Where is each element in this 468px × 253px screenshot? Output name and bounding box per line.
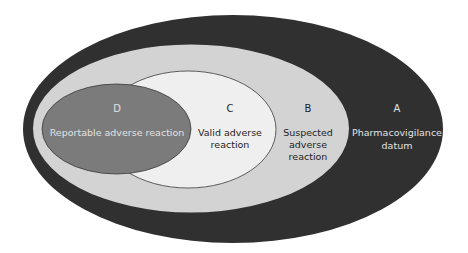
label-d-line1: Reportable adverse reaction bbox=[50, 127, 185, 138]
letter-a: A bbox=[394, 103, 401, 114]
label-c-line2: reaction bbox=[211, 139, 250, 150]
label-b-line1: Suspected bbox=[283, 127, 333, 138]
label-a-line1: Pharmacovigilance bbox=[352, 127, 442, 138]
label-a-line2: datum bbox=[382, 140, 413, 151]
letter-d: D bbox=[113, 103, 121, 114]
set-d: D Reportable adverse reaction bbox=[42, 84, 191, 174]
letter-b: B bbox=[305, 103, 312, 114]
letter-c: C bbox=[227, 103, 234, 114]
nested-set-diagram: A Pharmacovigilance datum B Suspected ad… bbox=[0, 0, 468, 253]
label-b-line2: adverse bbox=[289, 139, 327, 150]
label-c-line1: Valid adverse bbox=[198, 127, 262, 138]
label-b-line3: reaction bbox=[289, 151, 328, 162]
